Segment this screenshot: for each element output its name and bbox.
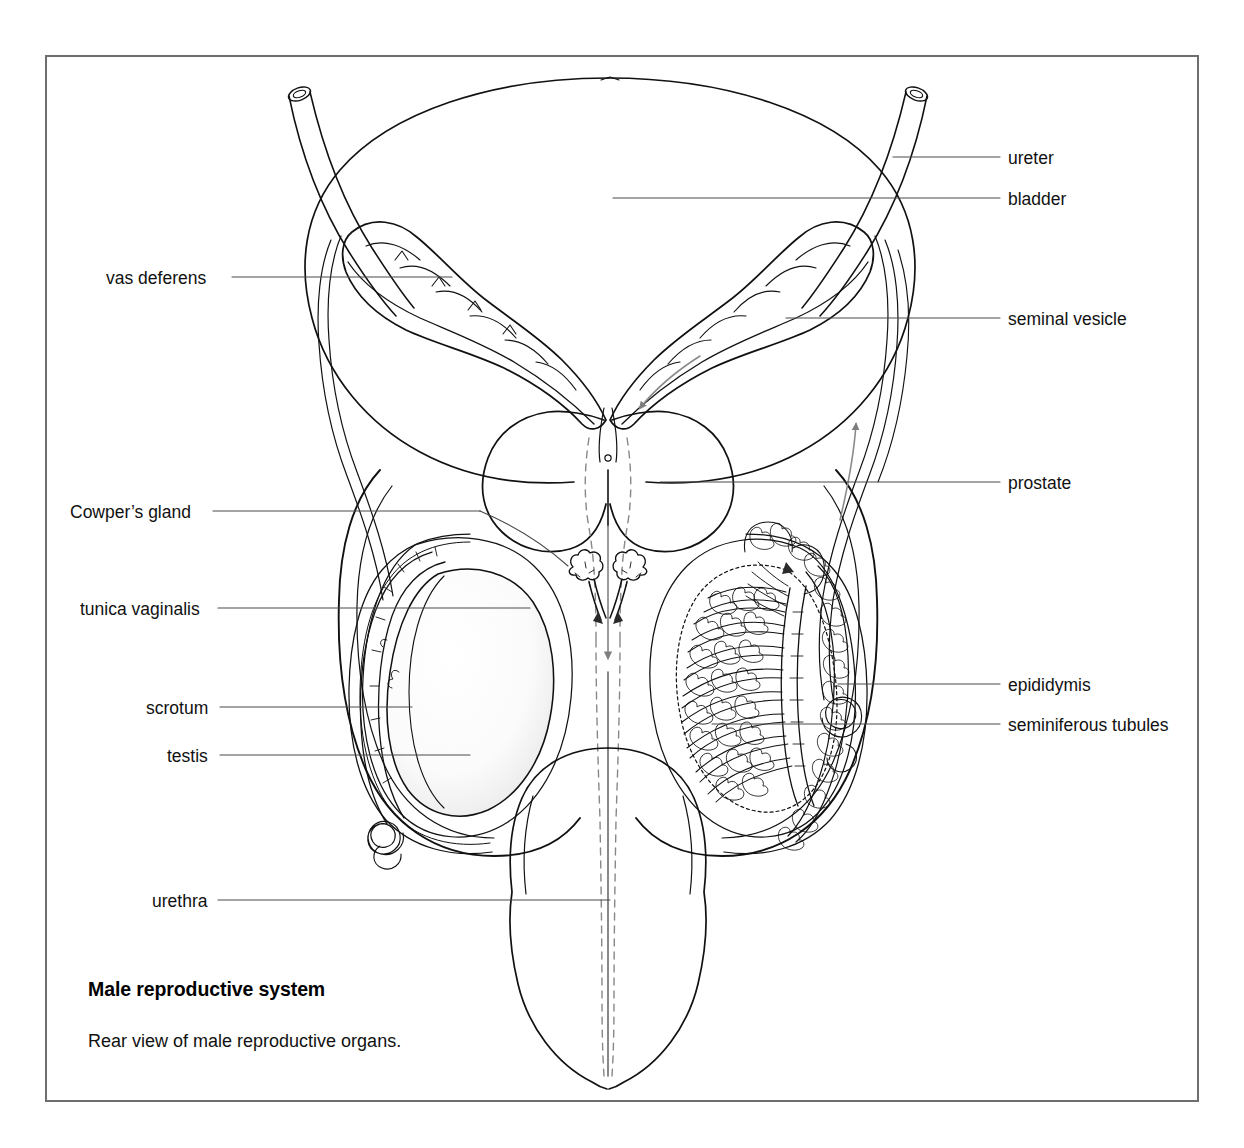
label-prostate: prostate [1008,475,1071,493]
label-tunica-vaginalis: tunica vaginalis [80,601,200,619]
label-seminal-vesicle: seminal vesicle [1008,311,1127,329]
right-cowpers-gland [610,550,647,624]
left-testis [363,538,573,837]
seminiferous-tubules [685,587,779,800]
left-cowpers-gland [569,550,606,624]
figure-canvas: vas deferens Cowper’s gland tunica vagin… [0,0,1244,1148]
leader-lines [213,157,1000,900]
label-bladder: bladder [1008,191,1066,209]
label-seminiferous-tubules: seminiferous tubules [1008,717,1169,735]
label-cowpers-gland: Cowper’s gland [70,504,191,522]
label-urethra: urethra [152,893,207,911]
figure-caption: Rear view of male reproductive organs. [88,1029,448,1053]
label-epididymis: epididymis [1008,677,1091,695]
label-vas-deferens: vas deferens [106,270,206,288]
anatomy-illustration [0,0,1244,1148]
figure-title: Male reproductive system [88,978,325,1001]
right-seminal-vesicle [610,222,873,429]
label-scrotum: scrotum [146,700,208,718]
label-testis: testis [167,748,208,766]
right-vas-deferens [819,236,908,704]
label-ureter: ureter [1008,150,1054,168]
left-seminal-vesicle [343,222,606,429]
